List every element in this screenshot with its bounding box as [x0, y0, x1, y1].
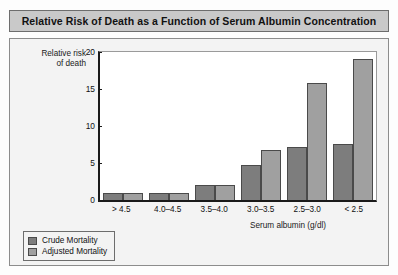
legend-label-adjusted: Adjusted Mortality	[42, 247, 107, 256]
legend-label-crude: Crude Mortality	[42, 236, 98, 245]
bar-group	[100, 52, 146, 200]
bar-group	[146, 52, 192, 200]
bar-group	[330, 52, 376, 200]
page-title: Relative Risk of Death as a Function of …	[22, 15, 377, 27]
bar-group	[192, 52, 238, 200]
x-tick-label: 2.5–3.0	[284, 205, 331, 214]
x-tick-label: > 4.5	[98, 205, 145, 214]
bar-group	[238, 52, 284, 200]
bar	[261, 150, 281, 200]
y-axis-title-line2: of death	[24, 59, 86, 69]
bar	[195, 185, 215, 200]
legend-swatch-adjusted	[28, 248, 37, 256]
chart-legend: Crude Mortality Adjusted Mortality	[23, 231, 115, 261]
y-tick-15: 15	[86, 84, 100, 94]
x-tick-label: 3.0–3.5	[238, 205, 285, 214]
bar	[353, 59, 373, 200]
bar	[333, 144, 353, 200]
x-axis-title: Serum albumin (g/dl)	[250, 221, 326, 230]
bar	[307, 83, 327, 200]
y-tick-10: 10	[86, 121, 100, 131]
y-tick-20: 20	[86, 47, 100, 57]
y-tick-label-5: 5	[90, 158, 98, 168]
plot-area: 0 5 10 15 20	[98, 51, 377, 202]
y-tick-label-20: 20	[86, 47, 98, 57]
bar-series-container	[100, 52, 376, 200]
bar	[169, 193, 189, 200]
x-tick-label: 3.5–4.0	[191, 205, 238, 214]
x-axis-tick-labels: > 4.54.0–4.53.5–4.03.0–3.52.5–3.0< 2.5	[98, 205, 377, 214]
y-tick-label-0: 0	[90, 195, 98, 205]
bar	[123, 193, 143, 200]
x-tick-label: 4.0–4.5	[145, 205, 192, 214]
figure-container: Relative Risk of Death as a Function of …	[0, 0, 398, 275]
y-tick-5: 5	[90, 158, 100, 168]
bar	[287, 147, 307, 200]
y-tick-0: 0	[90, 195, 100, 205]
bar	[103, 193, 123, 200]
bar	[149, 193, 169, 200]
bar-group	[284, 52, 330, 200]
bar	[215, 185, 235, 200]
bar	[241, 165, 261, 200]
y-tick-label-15: 15	[86, 84, 98, 94]
legend-swatch-crude	[28, 237, 37, 245]
x-tick-label: < 2.5	[331, 205, 378, 214]
y-axis-title: Relative risk of death	[24, 49, 86, 69]
legend-item-adjusted: Adjusted Mortality	[28, 246, 107, 257]
legend-item-crude: Crude Mortality	[28, 235, 107, 246]
y-tick-label-10: 10	[86, 121, 98, 131]
y-axis-title-line1: Relative risk	[24, 49, 86, 59]
chart-title-banner: Relative Risk of Death as a Function of …	[9, 10, 389, 32]
chart-panel: Relative risk of death 0 5 10 15 20	[9, 38, 389, 266]
